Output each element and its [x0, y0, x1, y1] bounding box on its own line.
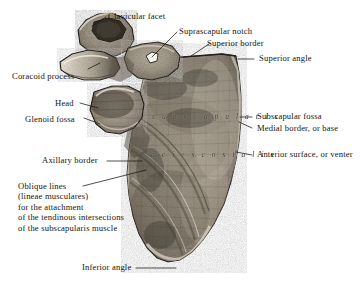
label-superior-angle: Superior angle: [259, 53, 312, 63]
label-suprascapular-notch: Suprascapular notch: [179, 26, 252, 36]
label-subscapular-fossa: Subscapular fossa: [257, 111, 322, 121]
oblique-lines-line-1: Oblique lines: [18, 181, 124, 191]
label-coracoid-process: Coracoid process: [12, 71, 74, 81]
oblique-lines-line-5: of the subscapularis muscle: [18, 223, 124, 233]
label-clavicular-facet: Clavicular facet: [108, 11, 165, 21]
scapula-illustration: [0, 0, 364, 290]
label-glenoid-fossa: Glenoid fossa: [25, 114, 75, 124]
oblique-lines-line-3: for the attachment: [18, 202, 124, 212]
label-axillary-border: Axillary border: [42, 155, 98, 165]
label-medial-border: Medial border, or base: [257, 123, 338, 133]
oblique-lines-line-2: (lineae musculares): [18, 191, 124, 201]
label-anterior-surface: Anterior surface, or venter: [257, 149, 353, 159]
oblique-lines-line-4: of the tendinous intersections: [18, 212, 124, 222]
anatomical-plate: s u b s c a p u l a r i s f a c i e s c …: [0, 0, 364, 290]
label-inferior-angle: Inferior angle: [82, 262, 131, 272]
engraved-facies-costalis: f a c i e s c o s t a l i s: [142, 150, 276, 159]
label-head: Head: [55, 98, 74, 108]
label-oblique-lines: Oblique lines (lineae musculares) for th…: [18, 181, 124, 233]
label-superior-border: Superior border: [207, 38, 264, 48]
